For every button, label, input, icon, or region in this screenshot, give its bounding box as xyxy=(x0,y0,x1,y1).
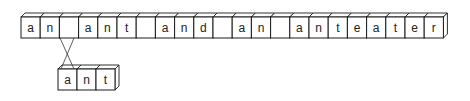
cell-char: n xyxy=(83,73,90,87)
cell-char: a xyxy=(238,21,245,35)
cell-char: n xyxy=(315,21,322,35)
cell-char: a xyxy=(162,21,169,35)
cell-char: n xyxy=(104,21,111,35)
top-string-row: an ant and an anteater xyxy=(21,13,447,38)
cell-char: a xyxy=(85,21,92,35)
cell-char: n xyxy=(46,21,53,35)
cell-char: a xyxy=(373,21,380,35)
cell-char: n xyxy=(258,21,265,35)
bottom-string-row: ant xyxy=(58,65,119,90)
cell-char: e xyxy=(354,21,361,35)
cell-char: n xyxy=(181,21,188,35)
cell-box xyxy=(213,17,232,38)
cell-char: d xyxy=(200,21,207,35)
cell-box xyxy=(136,17,155,38)
row-end-side-face xyxy=(443,13,447,38)
string-diagram: an ant and an anteater ant xyxy=(0,0,470,101)
substring-link xyxy=(60,38,74,69)
cell-char: e xyxy=(411,21,418,35)
cell-char: a xyxy=(64,73,71,87)
cell-box xyxy=(271,17,290,38)
cell-char: r xyxy=(432,21,436,35)
cell-box xyxy=(59,17,78,38)
row-end-side-face xyxy=(115,65,119,90)
cell-char: a xyxy=(27,21,34,35)
cell-char: a xyxy=(296,21,303,35)
